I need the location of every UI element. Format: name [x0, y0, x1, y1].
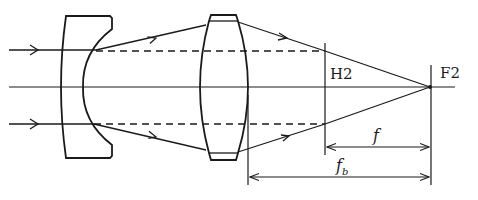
diagram-svg — [0, 0, 478, 200]
converging-ray-lower-a — [238, 124, 325, 152]
diverging-ray-lower — [94, 124, 206, 150]
converging-ray-lower-b — [325, 87, 430, 124]
optical-diagram: H2 F2 f fb — [0, 0, 478, 200]
incoming-ray-lower — [9, 119, 94, 129]
focal-point-f2 — [428, 85, 432, 89]
converging-ray-upper-a — [238, 22, 325, 51]
incoming-ray-upper — [9, 45, 96, 55]
label-f: f — [373, 128, 379, 144]
label-h2: H2 — [330, 67, 353, 82]
label-fb-sub: b — [342, 166, 348, 177]
label-f2: F2 — [440, 66, 460, 81]
label-fb: fb — [336, 158, 348, 174]
